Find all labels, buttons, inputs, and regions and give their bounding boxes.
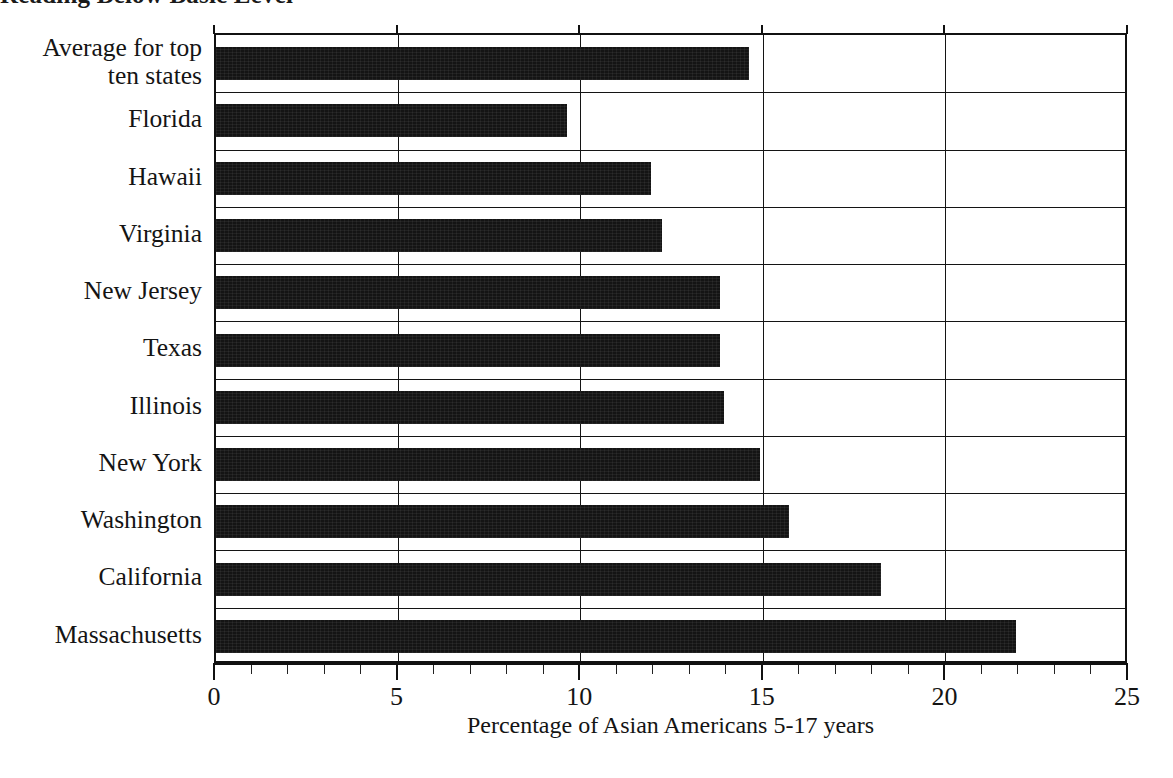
x-tick-label: 5: [390, 682, 403, 712]
x-axis-line: [214, 663, 1127, 665]
bar: [216, 219, 662, 252]
x-tick-minor: [1090, 665, 1091, 674]
bar: [216, 563, 881, 596]
x-tick-label: 10: [566, 682, 592, 712]
x-tick-top: [761, 25, 763, 34]
x-tick-minor: [1054, 665, 1055, 674]
x-tick-minor: [324, 665, 325, 674]
x-tick-minor: [506, 665, 507, 674]
row-separator: [216, 493, 1125, 494]
horizontal-bar-chart: Average for topten statesFloridaHawaiiVi…: [0, 0, 1173, 778]
category-label-line: Average for top: [42, 34, 202, 62]
x-tick-major: [943, 663, 945, 680]
category-label: Florida: [0, 90, 202, 147]
row-separator: [216, 150, 1125, 151]
x-tick-major: [761, 663, 763, 680]
category-label-line: Illinois: [130, 392, 202, 420]
x-tick-label: 20: [931, 682, 957, 712]
plot-area: [214, 33, 1127, 663]
category-label: California: [0, 548, 202, 605]
row-separator: [216, 264, 1125, 265]
row-separator: [216, 207, 1125, 208]
x-tick-minor: [287, 665, 288, 674]
x-tick-minor: [652, 665, 653, 674]
category-label: Hawaii: [0, 148, 202, 205]
gridline-x-20: [945, 35, 946, 661]
category-label-line: New York: [99, 449, 202, 477]
bar: [216, 391, 724, 424]
category-label-line: Florida: [128, 105, 202, 133]
category-label-line: New Jersey: [84, 277, 202, 305]
x-tick-minor: [798, 665, 799, 674]
x-tick-label: 0: [208, 682, 221, 712]
category-label: New Jersey: [0, 262, 202, 319]
row-separator: [216, 550, 1125, 551]
bar: [216, 505, 789, 538]
category-label-line: California: [99, 563, 202, 591]
x-tick-top: [396, 25, 398, 34]
category-label: Massachusetts: [0, 606, 202, 663]
category-label-line: Virginia: [119, 220, 202, 248]
x-tick-minor: [1017, 665, 1018, 674]
category-axis-labels: Average for topten statesFloridaHawaiiVi…: [0, 33, 206, 663]
bar: [216, 620, 1016, 653]
category-label: Virginia: [0, 205, 202, 262]
x-tick-minor: [543, 665, 544, 674]
category-label: Texas: [0, 319, 202, 376]
x-tick-minor: [616, 665, 617, 674]
row-separator: [216, 379, 1125, 380]
category-label-line: ten states: [108, 62, 202, 90]
x-tick-top: [1126, 25, 1128, 34]
row-separator: [216, 608, 1125, 609]
category-label: Illinois: [0, 377, 202, 434]
x-tick-minor: [835, 665, 836, 674]
x-tick-top: [578, 25, 580, 34]
bar: [216, 162, 651, 195]
bar: [216, 448, 760, 481]
x-tick-label: 15: [749, 682, 775, 712]
x-tick-minor: [433, 665, 434, 674]
x-tick-minor: [251, 665, 252, 674]
category-label: Average for topten states: [0, 33, 202, 90]
x-tick-minor: [470, 665, 471, 674]
category-label: New York: [0, 434, 202, 491]
category-label-line: Washington: [81, 506, 202, 534]
category-label-line: Massachusetts: [55, 621, 202, 649]
bar: [216, 276, 720, 309]
x-tick-major: [213, 663, 215, 680]
x-tick-minor: [981, 665, 982, 674]
category-label-line: Texas: [143, 334, 202, 362]
x-tick-minor: [871, 665, 872, 674]
bar: [216, 334, 720, 367]
row-separator: [216, 92, 1125, 93]
x-tick-minor: [360, 665, 361, 674]
x-tick-major: [396, 663, 398, 680]
x-axis-title: Percentage of Asian Americans 5-17 years: [214, 712, 1127, 739]
x-tick-major: [1126, 663, 1128, 680]
bar: [216, 47, 749, 80]
x-tick-minor: [689, 665, 690, 674]
category-label-line: Hawaii: [128, 163, 202, 191]
row-separator: [216, 436, 1125, 437]
bar: [216, 104, 567, 137]
x-tick-top: [213, 25, 215, 34]
x-tick-label: 25: [1114, 682, 1140, 712]
x-tick-minor: [908, 665, 909, 674]
row-separator: [216, 321, 1125, 322]
category-label: Washington: [0, 491, 202, 548]
x-tick-major: [578, 663, 580, 680]
x-tick-top: [943, 25, 945, 34]
x-tick-minor: [725, 665, 726, 674]
